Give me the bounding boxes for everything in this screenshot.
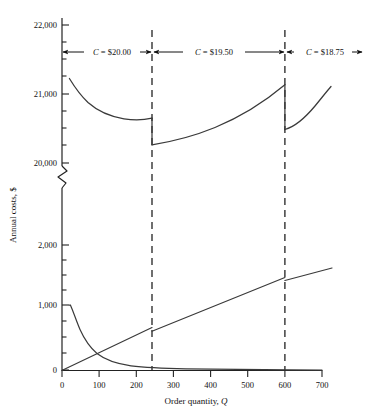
y-tick-label-22000: 22,000 <box>34 20 57 30</box>
tier-1-label: C = $20.00 <box>93 47 131 57</box>
x-tick-label-300: 300 <box>167 380 180 390</box>
y-tick-label-20000: 20,000 <box>34 158 57 168</box>
holding-cost-line <box>62 268 332 370</box>
tier-3-label: C = $18.75 <box>306 47 344 57</box>
x-axis-label-variable: Q <box>221 396 228 406</box>
x-tick-label-200: 200 <box>130 380 143 390</box>
axis-break-zigzag <box>58 166 67 188</box>
holding-cost-segment-tier2 <box>152 278 285 332</box>
holding-cost-segment-tier3 <box>285 268 332 281</box>
x-tick-label-400: 400 <box>204 380 217 390</box>
price-tier-annotations: C = $20.00 C = $19.50 C = $18.75 <box>63 47 362 57</box>
holding-cost-segment-tier1 <box>62 328 152 371</box>
x-axis-label: Order quantity, Q <box>164 396 228 406</box>
x-tick-label-600: 600 <box>279 380 292 390</box>
ordering-cost-curve <box>69 305 322 370</box>
x-axis-label-text: Order quantity, <box>164 396 221 406</box>
y-tick-label-21000: 21,000 <box>34 89 57 99</box>
ordering-cost-path <box>69 305 322 370</box>
axes <box>58 18 322 371</box>
x-tick-label-0: 0 <box>60 380 64 390</box>
total-cost-curve <box>69 79 331 145</box>
y-axis-upper-ticks <box>62 25 69 163</box>
tier-2-label: C = $19.50 <box>195 47 233 57</box>
chart-figure: 22,000 21,000 20,000 2,000 1,000 0 0 100… <box>0 0 365 415</box>
eoq-quantity-discount-chart: 22,000 21,000 20,000 2,000 1,000 0 0 100… <box>0 0 365 415</box>
x-tick-label-100: 100 <box>93 380 106 390</box>
total-cost-segment-tier3 <box>285 87 331 130</box>
y-tick-label-0: 0 <box>53 365 57 375</box>
y-tick-label-2000: 2,000 <box>38 240 57 250</box>
total-cost-segment-tier2 <box>152 85 285 145</box>
y-axis-label: Annual costs, $ <box>8 187 18 243</box>
y-tick-label-1000: 1,000 <box>38 300 57 310</box>
x-tick-label-700: 700 <box>316 380 329 390</box>
y-axis-lower-ticks <box>62 245 69 370</box>
total-cost-segment-tier1 <box>69 79 152 120</box>
x-tick-label-500: 500 <box>241 380 254 390</box>
